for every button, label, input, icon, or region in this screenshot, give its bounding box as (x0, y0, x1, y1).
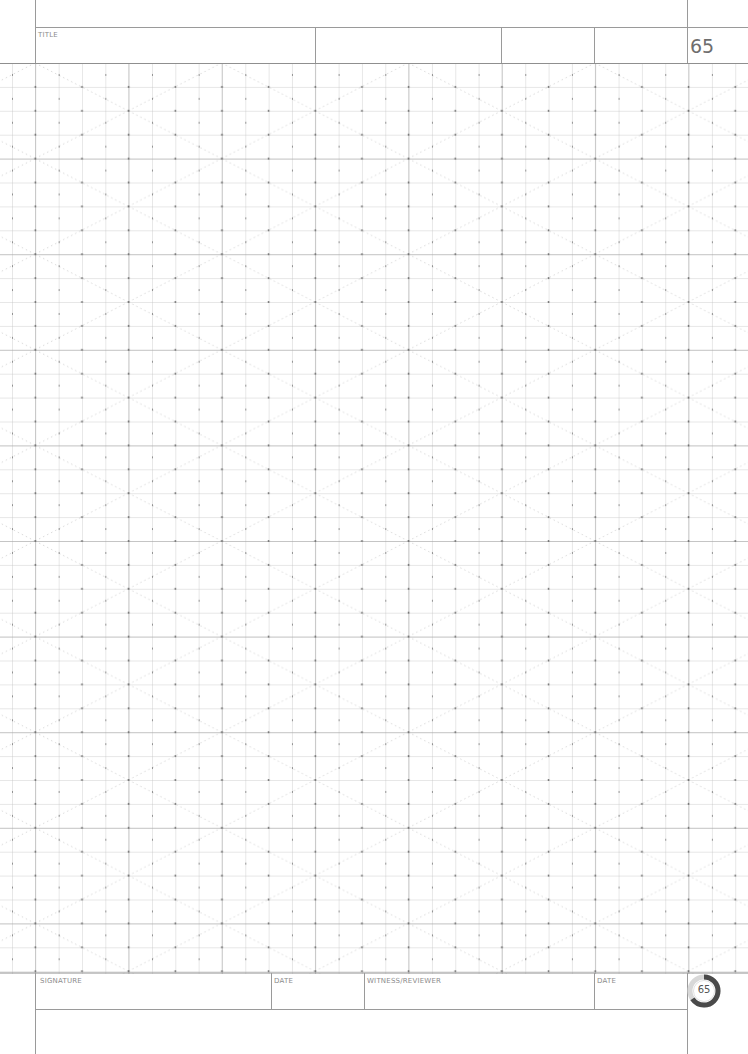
date-label-2: DATE (597, 977, 616, 985)
graph-grid (0, 63, 748, 974)
signature-label: SIGNATURE (40, 977, 82, 985)
witness-label: WITNESS/REVIEWER (367, 977, 441, 985)
badge-number: 65 (687, 984, 721, 995)
date-field-1[interactable]: DATE (272, 974, 364, 1009)
page-progress-badge: 65 (687, 974, 721, 1008)
header-field-3[interactable] (502, 28, 594, 63)
right-margin-line-top (687, 0, 688, 63)
header-field-2[interactable] (316, 28, 501, 63)
date-label-1: DATE (274, 977, 293, 985)
witness-field[interactable]: WITNESS/REVIEWER (365, 974, 594, 1009)
signature-field[interactable]: SIGNATURE (36, 974, 271, 1009)
title-label: TITLE (38, 31, 58, 39)
page-number: 65 (690, 35, 714, 57)
header-field-4[interactable] (595, 28, 687, 63)
title-field[interactable]: TITLE (36, 28, 315, 63)
footer-bottom-rule (35, 1009, 687, 1010)
date-field-2[interactable]: DATE (595, 974, 687, 1009)
